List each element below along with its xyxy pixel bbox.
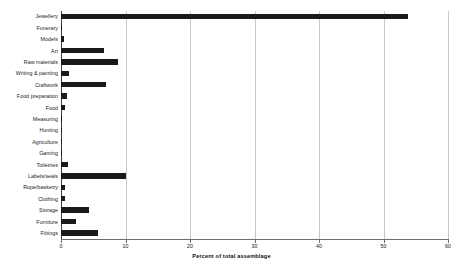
category-label: Models [2, 36, 58, 42]
bar [61, 128, 62, 133]
bar [61, 219, 76, 224]
category-label: Art [2, 48, 58, 54]
bar-row [61, 193, 448, 204]
bar-row [61, 171, 448, 182]
gridline-60 [448, 11, 449, 239]
plot-area [61, 11, 448, 239]
category-label: Fittings [2, 230, 58, 236]
bar-row [61, 68, 448, 79]
x-tick-label: 20 [187, 243, 193, 249]
category-label: Jewellery [2, 13, 58, 19]
bar [61, 48, 104, 53]
bar-row [61, 136, 448, 147]
bar [61, 230, 98, 235]
x-axis-title: Percent of total assemblage [0, 253, 463, 259]
category-label: Craftwork [2, 82, 58, 88]
bar-row [61, 228, 448, 239]
bar-row [61, 79, 448, 90]
x-tick-label: 60 [445, 243, 451, 249]
category-label: Rope/basketry [2, 184, 58, 190]
bar-row [61, 114, 448, 125]
category-label: Food preparation [2, 93, 58, 99]
bar [61, 162, 68, 167]
bar-row [61, 57, 448, 68]
bar [61, 25, 62, 30]
bar [61, 139, 62, 144]
x-tick-label: 10 [123, 243, 129, 249]
bar-row [61, 34, 448, 45]
bar [61, 105, 65, 110]
category-label: Gaming [2, 150, 58, 156]
category-label: Raw materials [2, 59, 58, 65]
bar-row [61, 22, 448, 33]
bar [61, 14, 408, 19]
category-label: Writing & painting [2, 70, 58, 76]
bar [61, 196, 65, 201]
category-label: Funerary [2, 25, 58, 31]
bar [61, 150, 62, 155]
category-label: Toiletries [2, 162, 58, 168]
bar-row [61, 11, 448, 22]
x-tick-label: 30 [252, 243, 258, 249]
category-label: Measuring [2, 116, 58, 122]
category-label: Food [2, 105, 58, 111]
category-label: Furniture [2, 219, 58, 225]
category-label: Hunting [2, 127, 58, 133]
bar [61, 82, 106, 87]
bar-row [61, 45, 448, 56]
bar [61, 36, 64, 41]
bar-row [61, 91, 448, 102]
bar-row [61, 159, 448, 170]
bar [61, 93, 67, 98]
bar-row [61, 205, 448, 216]
x-tick-label: 50 [381, 243, 387, 249]
bar [61, 173, 126, 178]
category-label: Storage [2, 207, 58, 213]
bar-chart: JewelleryFuneraryModelsArtRaw materialsW… [0, 0, 463, 271]
bar [61, 116, 62, 121]
category-label: Labels/seals [2, 173, 58, 179]
bar [61, 59, 118, 64]
x-tick-label: 40 [316, 243, 322, 249]
bar [61, 185, 65, 190]
category-axis-labels: JewelleryFuneraryModelsArtRaw materialsW… [0, 11, 58, 239]
bar-row [61, 148, 448, 159]
bar-row [61, 216, 448, 227]
bar [61, 71, 69, 76]
bar [61, 207, 89, 212]
category-label: Clothing [2, 196, 58, 202]
bar-row [61, 125, 448, 136]
bar-row [61, 102, 448, 113]
x-tick-label: 0 [60, 243, 63, 249]
bar-row [61, 182, 448, 193]
category-label: Agriculture [2, 139, 58, 145]
